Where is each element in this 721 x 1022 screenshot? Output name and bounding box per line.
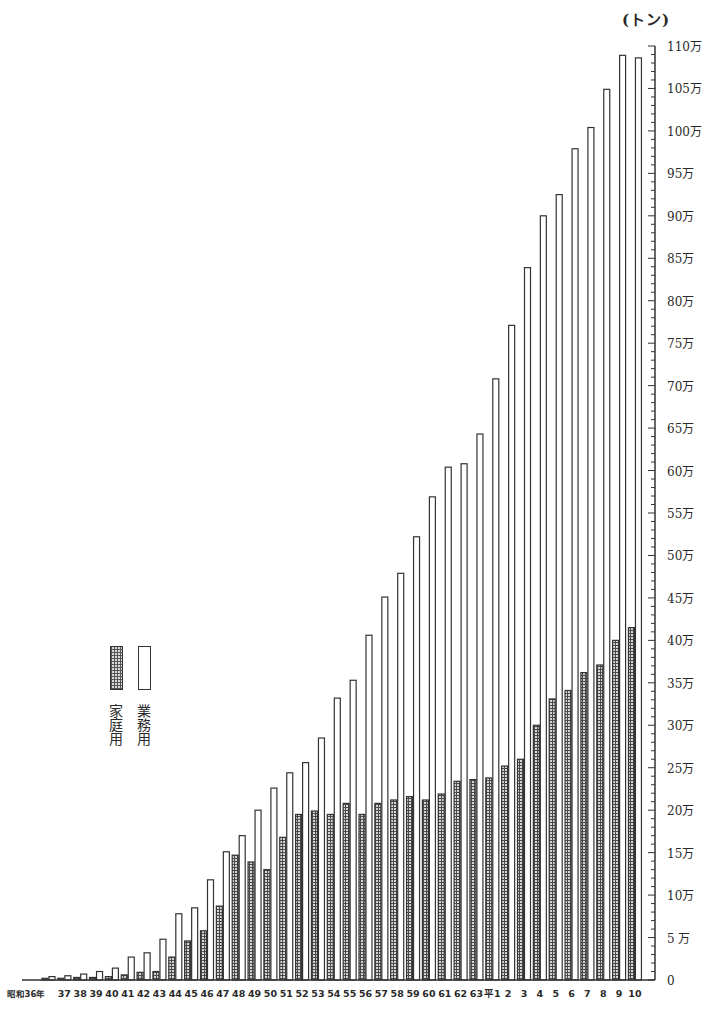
y-tick-label: 70万: [667, 380, 694, 394]
x-tick-label: 56: [359, 988, 373, 999]
bar-business: [112, 968, 118, 980]
x-tick-label: 49: [248, 988, 261, 999]
bar-home: [169, 957, 175, 980]
bar-business: [160, 939, 166, 980]
bar-home: [422, 800, 428, 980]
y-tick-label: 75万: [667, 337, 694, 351]
bar-business: [509, 325, 515, 980]
x-tick-label: 37: [58, 988, 71, 999]
y-tick-label: 10万: [667, 889, 694, 903]
y-tick-label: 110万: [667, 40, 702, 54]
x-tick-label: 54: [327, 988, 341, 999]
y-tick-label: 40万: [667, 634, 694, 648]
x-tick-label: 41: [121, 988, 134, 999]
bar-business: [350, 680, 356, 980]
x-tick-label: 47: [216, 988, 229, 999]
bar-home: [359, 814, 365, 980]
bar-business: [588, 128, 594, 980]
bar-business: [97, 972, 103, 980]
bar-home: [311, 811, 317, 980]
bar-business: [303, 763, 309, 980]
bar-business: [208, 880, 214, 980]
bar-business: [556, 195, 562, 980]
x-tick-label: 48: [232, 988, 246, 999]
unit-label: (トン): [622, 8, 670, 29]
bar-home: [438, 794, 444, 980]
x-tick-label: 51: [280, 988, 293, 999]
bar-home: [470, 780, 476, 980]
bar-home: [375, 803, 381, 980]
x-tick-label: 45: [185, 988, 198, 999]
x-tick-label: 8: [600, 988, 607, 999]
legend: 家庭用 業務用: [108, 646, 168, 776]
legend-swatch-business: [138, 646, 151, 690]
bar-business: [128, 957, 134, 980]
bar-business: [620, 55, 626, 980]
x-tick-label: 39: [89, 988, 102, 999]
y-tick-label: 15万: [667, 847, 694, 861]
bar-home: [502, 766, 508, 980]
x-tick-label: 42: [137, 988, 150, 999]
y-tick-label: 85万: [667, 252, 694, 266]
bar-business: [334, 698, 340, 980]
bar-home: [597, 665, 603, 980]
y-tick-label: 65万: [667, 422, 694, 436]
bar-business: [223, 852, 229, 980]
x-tick-label: 40: [105, 988, 119, 999]
bar-business: [540, 216, 546, 980]
bar-business: [477, 434, 483, 980]
bar-business: [271, 788, 277, 980]
y-tick-label: 100万: [667, 125, 702, 139]
bar-home: [486, 778, 492, 980]
y-tick-label: 80万: [667, 295, 694, 309]
bar-home: [518, 759, 524, 980]
bar-business: [604, 89, 610, 980]
y-tick-label: 105万: [667, 82, 702, 96]
bar-business: [255, 810, 261, 980]
y-tick-label: 90万: [667, 210, 694, 224]
bar-home: [185, 941, 191, 980]
bar-business: [239, 836, 245, 980]
bar-home: [407, 797, 413, 980]
bar-business: [493, 379, 499, 980]
bar-business: [525, 268, 531, 980]
y-tick-label: 0: [667, 974, 675, 988]
bar-business: [445, 467, 451, 980]
x-tick-label: 10: [628, 988, 642, 999]
y-tick-label: 95万: [667, 167, 694, 181]
x-tick-label: 60: [422, 988, 436, 999]
bar-home: [264, 870, 270, 980]
x-tick-label: 62: [454, 988, 467, 999]
bar-business: [318, 738, 324, 980]
bar-business: [572, 149, 578, 980]
bar-home: [549, 699, 555, 980]
bar-business: [429, 497, 435, 980]
y-tick-label: 45万: [667, 592, 694, 606]
bar-business: [287, 773, 293, 980]
x-tick-label: 59: [406, 988, 419, 999]
bar-business: [461, 464, 467, 980]
x-tick-label: 43: [153, 988, 166, 999]
x-tick-label: 55: [343, 988, 356, 999]
x-tick-label: 52: [295, 988, 308, 999]
legend-swatch-home: [110, 646, 123, 690]
x-tick-label: 昭和36年: [7, 989, 46, 999]
bar-home: [533, 725, 539, 980]
bar-home: [565, 690, 571, 980]
bar-business: [192, 908, 198, 980]
y-tick-label: 35万: [667, 677, 694, 691]
x-tick-label: 2: [505, 988, 512, 999]
x-tick-label: 3: [521, 988, 528, 999]
bar-home: [327, 814, 333, 980]
bars-group: [42, 55, 641, 980]
bar-business: [81, 974, 87, 980]
bar-business: [635, 58, 641, 980]
bar-home: [121, 975, 127, 980]
x-tick-label: 53: [311, 988, 324, 999]
bar-home: [137, 972, 143, 980]
x-tick-label: 50: [264, 988, 278, 999]
bar-home: [454, 781, 460, 980]
legend-label-home: 家庭用: [109, 704, 125, 746]
x-tick-label: 9: [616, 988, 623, 999]
y-tick-label: 50万: [667, 549, 694, 563]
